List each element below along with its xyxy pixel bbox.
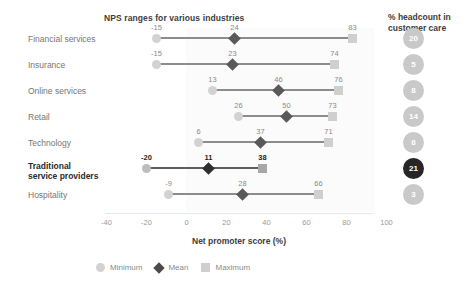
- chart-row: Retail26507314: [0, 98, 473, 124]
- x-tick-label: 60: [292, 218, 322, 227]
- mean-value-label: 11: [194, 153, 224, 162]
- maximum-value-label: 66: [304, 179, 334, 188]
- minimum-marker: [152, 34, 161, 43]
- x-tick-label: 40: [252, 218, 282, 227]
- mean-value-label: 46: [264, 75, 294, 84]
- minimum-marker: [208, 86, 217, 95]
- minimum-value-label: 26: [224, 101, 254, 110]
- minimum-value-label: -15: [142, 49, 172, 58]
- row-label-technology: Technology: [28, 138, 128, 148]
- mean-marker: [236, 188, 249, 201]
- row-label-line: Online services: [28, 86, 128, 96]
- minimum-value-label: -15: [142, 23, 172, 32]
- x-axis-title: Net promoter score (%): [105, 236, 373, 246]
- mean-marker: [202, 162, 215, 175]
- maximum-value-label: 76: [324, 75, 354, 84]
- mean-value-label: 23: [218, 49, 248, 58]
- legend-label-mean: Mean: [168, 263, 188, 272]
- maximum-marker: [314, 190, 323, 199]
- x-tick-label: -40: [92, 218, 122, 227]
- minimum-value-label: 13: [198, 75, 228, 84]
- maximum-marker: [348, 34, 357, 43]
- maximum-marker: [258, 164, 267, 173]
- maximum-value-label: 38: [248, 153, 278, 162]
- x-axis-line: [105, 213, 373, 214]
- mean-value-label: 50: [272, 101, 302, 110]
- row-label-line: Insurance: [28, 60, 128, 70]
- maximum-marker: [328, 112, 337, 121]
- minimum-marker: [194, 138, 203, 147]
- chart-row: Technology637718: [0, 124, 473, 150]
- x-tick-label: 20: [212, 218, 242, 227]
- maximum-value-label: 74: [320, 49, 350, 58]
- maximum-marker: [330, 60, 339, 69]
- row-label-line: Traditional: [28, 161, 128, 171]
- maximum-marker: [334, 86, 343, 95]
- row-label-line: Financial services: [28, 34, 128, 44]
- minimum-value-label: 6: [184, 127, 214, 136]
- minimum-marker: [234, 112, 243, 121]
- nps-range-chart: NPS ranges for various industries % head…: [0, 0, 473, 292]
- row-label-line: Retail: [28, 112, 128, 122]
- minimum-marker: [164, 190, 173, 199]
- mean-marker: [280, 110, 293, 123]
- mean-value-label: 37: [246, 127, 276, 136]
- minimum-value-label: -9: [154, 179, 184, 188]
- headcount-badge: 3: [403, 184, 424, 205]
- chart-legend: Minimum Mean Maximum: [96, 263, 250, 272]
- maximum-value-label: 83: [338, 23, 368, 32]
- chart-row: Insurance-1523745: [0, 46, 473, 72]
- mean-marker: [228, 32, 241, 45]
- mean-marker-icon: [154, 262, 165, 273]
- row-label-line: Technology: [28, 138, 128, 148]
- chart-row: Hospitality-928663: [0, 176, 473, 202]
- mean-value-label: 28: [228, 179, 258, 188]
- row-label-insurance: Insurance: [28, 60, 128, 70]
- chart-row: Online services1346768: [0, 72, 473, 98]
- legend-item-minimum: Minimum: [96, 263, 142, 272]
- mean-marker: [226, 58, 239, 71]
- mean-marker: [254, 136, 267, 149]
- legend-item-maximum: Maximum: [201, 263, 250, 272]
- legend-label-maximum: Maximum: [215, 263, 250, 272]
- maximum-marker: [324, 138, 333, 147]
- x-tick-label: 0: [172, 218, 202, 227]
- maximum-value-label: 73: [318, 101, 348, 110]
- mean-marker: [272, 84, 285, 97]
- legend-item-mean: Mean: [155, 263, 188, 272]
- range-line: [157, 37, 353, 38]
- row-label-financial-services: Financial services: [28, 34, 128, 44]
- x-tick-label: 80: [332, 218, 362, 227]
- row-label-hospitality: Hospitality: [28, 190, 128, 200]
- range-line: [157, 63, 335, 64]
- minimum-marker-icon: [96, 263, 105, 272]
- minimum-marker: [152, 60, 161, 69]
- row-label-line: Hospitality: [28, 190, 128, 200]
- row-label-online-services: Online services: [28, 86, 128, 96]
- minimum-marker: [142, 164, 151, 173]
- x-tick-label: -20: [132, 218, 162, 227]
- mean-value-label: 24: [220, 23, 250, 32]
- maximum-value-label: 71: [314, 127, 344, 136]
- row-label-retail: Retail: [28, 112, 128, 122]
- chart-row: Traditionalservice providers-20113821: [0, 150, 473, 176]
- minimum-value-label: -20: [132, 153, 162, 162]
- maximum-marker-icon: [201, 263, 210, 272]
- legend-label-minimum: Minimum: [110, 263, 142, 272]
- chart-row: Financial services-15248320: [0, 20, 473, 46]
- x-tick-label: 100: [372, 218, 402, 227]
